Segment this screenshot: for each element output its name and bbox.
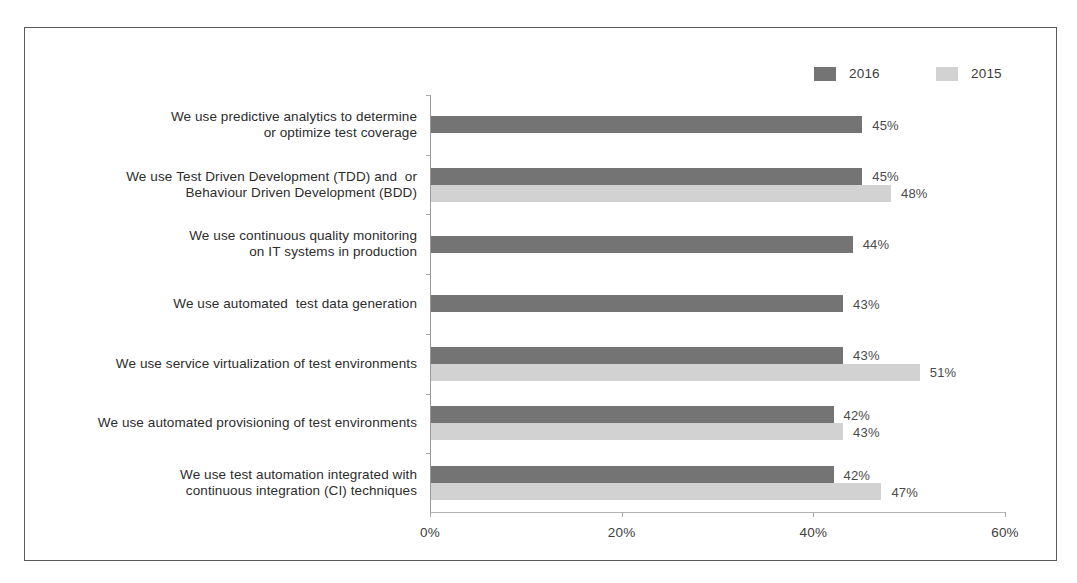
bar-2016[interactable] [431,168,862,185]
legend-label-2015: 2015 [971,66,1002,81]
bar-row: 47% [430,483,1005,500]
bar-2016[interactable] [431,466,834,483]
legend-swatch-2015 [936,67,958,81]
legend-label-2016: 2016 [849,66,880,81]
category-label: We use automated test data generation [87,296,417,312]
bar-value-label: 45% [872,169,899,184]
bar-group: We use test automation integrated withco… [430,453,1005,513]
bar-group: We use automated provisioning of test en… [430,394,1005,454]
bar-row: 43% [430,347,1005,364]
bar-row: 44% [430,236,1005,253]
bar-2016[interactable] [431,116,862,133]
bar-value-label: 51% [930,365,957,380]
bar-value-label: 43% [853,296,880,311]
bar-row: 43% [430,423,1005,440]
bar-group: We use service virtualization of test en… [430,334,1005,394]
bar-2016[interactable] [431,347,843,364]
bar-2016[interactable] [431,295,843,312]
bar-value-label: 43% [853,424,880,439]
category-label: We use continuous quality monitoringon I… [87,228,417,260]
bar-group: We use predictive analytics to determine… [430,95,1005,155]
category-label: We use service virtualization of test en… [87,356,417,372]
chart-frame: 2016 2015 0%20%40%60% We use predictive … [24,27,1057,561]
bar-row: 48% [430,185,1005,202]
bar-group: We use automated test data generation43% [430,274,1005,334]
bar-2015[interactable] [431,423,843,440]
bar-2015[interactable] [431,364,920,381]
x-tick-label: 40% [800,525,828,540]
category-label-line: We use automated test data generation [87,296,417,312]
bar-group: We use continuous quality monitoringon I… [430,214,1005,274]
x-tick-label: 60% [991,525,1019,540]
category-label-line: on IT systems in production [87,244,417,260]
category-label: We use test automation integrated withco… [87,467,417,499]
category-label: We use automated provisioning of test en… [87,415,417,431]
bar-row: 45% [430,168,1005,185]
bar-2016[interactable] [431,236,853,253]
bar-value-label: 47% [891,484,918,499]
category-label-line: We use test automation integrated with [87,467,417,483]
plot-area: 0%20%40%60% We use predictive analytics … [430,95,1005,513]
x-tick-label: 20% [608,525,636,540]
bar-group: We use Test Driven Development (TDD) and… [430,155,1005,215]
legend-swatch-2016 [814,67,836,81]
bar-value-label: 44% [863,237,890,252]
category-label-line: We use automated provisioning of test en… [87,415,417,431]
bar-value-label: 48% [901,186,928,201]
bar-value-label: 45% [872,117,899,132]
category-label-line: We use continuous quality monitoring [87,228,417,244]
bar-row: 43% [430,295,1005,312]
bar-value-label: 43% [853,348,880,363]
bar-value-label: 42% [844,467,871,482]
legend-item-2015[interactable]: 2015 [936,66,1002,81]
category-label: We use predictive analytics to determine… [87,109,417,141]
x-tick-mark [1005,512,1006,517]
category-label: We use Test Driven Development (TDD) and… [87,169,417,201]
category-label-line: We use service virtualization of test en… [87,356,417,372]
category-label-line: continuous integration (CI) techniques [87,483,417,499]
bar-row: 45% [430,116,1005,133]
bar-2015[interactable] [431,185,891,202]
category-label-line: Behaviour Driven Development (BDD) [87,185,417,201]
bar-row: 51% [430,364,1005,381]
category-label-line: We use Test Driven Development (TDD) and… [87,169,417,185]
bar-2015[interactable] [431,483,881,500]
bar-row: 42% [430,406,1005,423]
bar-2016[interactable] [431,406,834,423]
legend-item-2016[interactable]: 2016 [814,66,880,81]
category-label-line: We use predictive analytics to determine [87,109,417,125]
x-tick-label: 0% [420,525,440,540]
category-label-line: or optimize test coverage [87,125,417,141]
bar-row: 42% [430,466,1005,483]
bar-value-label: 42% [844,407,871,422]
